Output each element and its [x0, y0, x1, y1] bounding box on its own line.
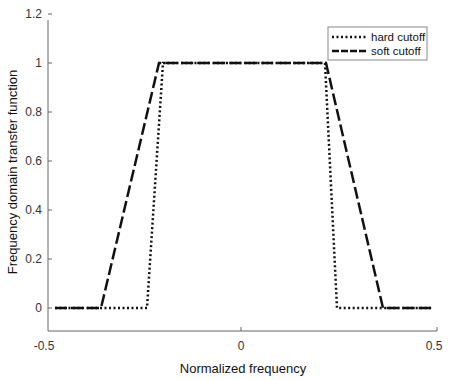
- legend-hard-cutoff: hard cutoff: [371, 31, 426, 43]
- chart: 0 0.2 0.4 0.6 0.8 1 1.2 -0.5 0 0.5 Norma…: [0, 0, 453, 380]
- y-axis-label: Frequency domain transfer function: [5, 70, 20, 275]
- y-tick-label: 0.2: [25, 252, 42, 266]
- legend: hard cutoff soft cutoff: [328, 27, 427, 60]
- x-tick-label: 0: [238, 339, 245, 353]
- x-ticks: [241, 327, 437, 331]
- series-soft-cutoff: [55, 63, 432, 308]
- y-tick-label: 1: [35, 56, 42, 70]
- x-axis-label: Normalized frequency: [180, 361, 307, 376]
- x-tick-label: -0.5: [34, 339, 55, 353]
- y-ticks: [48, 14, 52, 308]
- y-tick-label: 0: [35, 301, 42, 315]
- legend-soft-cutoff: soft cutoff: [371, 45, 421, 57]
- x-tick-label: 0.5: [426, 339, 443, 353]
- y-tick-label: 0.8: [25, 105, 42, 119]
- y-tick-label: 0.6: [25, 154, 42, 168]
- y-tick-label: 1.2: [25, 7, 42, 21]
- y-tick-label: 0.4: [25, 203, 42, 217]
